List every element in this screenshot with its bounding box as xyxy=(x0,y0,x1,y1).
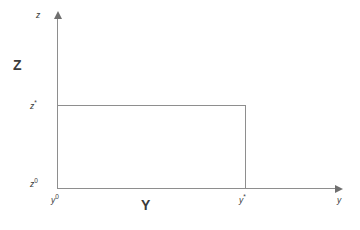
z-axis-title: Z xyxy=(13,58,22,72)
tick-label-y-zero-sup: 0 xyxy=(55,193,59,200)
y-axis-name-label: y xyxy=(337,196,341,205)
tick-label-y-zero: y0 xyxy=(51,194,59,204)
tick-label-y-star: y* xyxy=(239,194,246,204)
tick-label-z-star: z* xyxy=(30,100,37,110)
region-top-edge xyxy=(57,105,246,106)
z-axis-arrow-icon xyxy=(54,11,62,19)
region-right-edge xyxy=(245,105,246,189)
tick-label-z-star-sup: * xyxy=(34,99,37,106)
tick-label-y-star-sup: * xyxy=(243,193,246,200)
tick-label-z-zero-sup: 0 xyxy=(34,177,38,184)
y-axis-arrow-icon xyxy=(335,185,343,193)
diagram-canvas: z y Z Y z* z0 y0 y* xyxy=(0,0,360,230)
y-axis-line xyxy=(57,188,337,189)
y-axis-title: Y xyxy=(141,198,151,212)
tick-label-z-zero: z0 xyxy=(30,178,38,188)
z-axis-name-label: z xyxy=(36,11,40,20)
z-axis-line xyxy=(57,18,58,189)
